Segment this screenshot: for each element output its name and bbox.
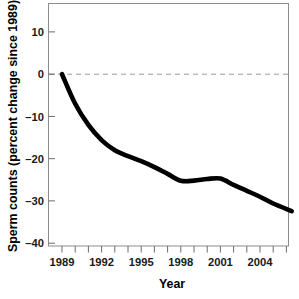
y-tick-label: –10 bbox=[25, 111, 44, 123]
y-axis-title: Sperm counts (percent change since 1989) bbox=[6, 0, 20, 252]
x-tick-label: 1995 bbox=[129, 256, 154, 268]
x-tick-label: 1992 bbox=[89, 256, 114, 268]
y-tick-label: 0 bbox=[38, 68, 44, 80]
chart-figure: 10 0 –10 –20 –30 –40 bbox=[0, 0, 299, 299]
line-chart: 10 0 –10 –20 –30 –40 bbox=[0, 0, 299, 299]
x-tick-label: 1989 bbox=[50, 256, 75, 268]
x-tick-label: 1998 bbox=[168, 256, 193, 268]
y-tick-label: –20 bbox=[25, 153, 44, 165]
x-tick-label: 2001 bbox=[208, 256, 233, 268]
y-tick-label: –30 bbox=[25, 195, 44, 207]
chart-background bbox=[0, 0, 299, 299]
x-axis-title: Year bbox=[159, 277, 185, 291]
y-tick-label: –40 bbox=[25, 237, 44, 249]
x-tick-label: 2004 bbox=[248, 256, 274, 268]
y-tick-label: 10 bbox=[32, 26, 44, 38]
